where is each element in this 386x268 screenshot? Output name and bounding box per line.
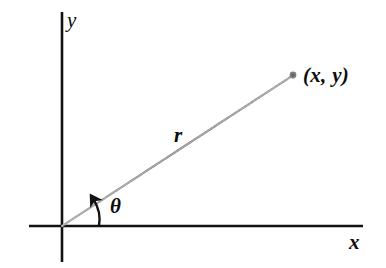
polar-coordinate-figure: y x r θ (x, y) (0, 0, 386, 268)
x-axis-label: x (349, 232, 360, 253)
y-axis-label: y (67, 10, 76, 31)
coordinate-diagram (0, 0, 386, 268)
point-coordinates-label: (x, y) (303, 65, 349, 86)
angle-label: θ (110, 196, 121, 217)
radius-label: r (174, 125, 182, 146)
point-marker-core (291, 73, 294, 76)
